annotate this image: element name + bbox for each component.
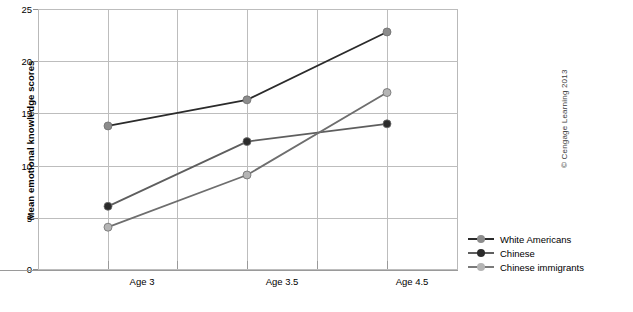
figure-container: Mean emotional knowledge scores 25 20 15… [0, 0, 633, 312]
ytick-label-20: 20 [21, 56, 32, 67]
legend-label-white-americans: White Americans [500, 234, 571, 245]
legend-swatch-icon [468, 248, 494, 258]
data-point [104, 223, 112, 231]
x-axis-line [0, 270, 458, 271]
series-layer [38, 9, 458, 270]
xtick-mark-5 [387, 261, 388, 269]
xtick-mark-4 [317, 261, 318, 269]
legend-label-chinese: Chinese [500, 248, 535, 259]
xtick-label-age-45: Age 4.5 [396, 276, 429, 287]
ytick-label-25: 25 [21, 4, 32, 15]
series-line-1 [108, 124, 387, 206]
legend: White Americans Chinese Chinese immigran… [468, 232, 618, 274]
data-point [104, 122, 112, 130]
xtick-label-age-3: Age 3 [130, 276, 155, 287]
ytick-label-15: 15 [21, 108, 32, 119]
plot-area: 25 20 15 10 5 0 [38, 9, 458, 270]
series-line-0 [108, 32, 387, 126]
data-point [243, 171, 251, 179]
legend-swatch-icon [468, 234, 494, 244]
copyright-credit: © Cengage Learning 2013 [560, 38, 569, 168]
xtick-mark-3 [247, 261, 248, 269]
data-point [104, 202, 112, 210]
legend-swatch-icon [468, 262, 494, 272]
data-point [383, 89, 391, 97]
data-point [243, 138, 251, 146]
ytick-label-5: 5 [27, 213, 32, 224]
legend-item-white-americans: White Americans [468, 232, 618, 246]
xtick-mark-1 [108, 261, 109, 269]
legend-item-chinese: Chinese [468, 246, 618, 260]
data-point [383, 120, 391, 128]
ytick-label-10: 10 [21, 161, 32, 172]
legend-label-chinese-immigrants: Chinese immigrants [500, 262, 584, 273]
data-point [383, 28, 391, 36]
xtick-mark-2 [177, 261, 178, 269]
series-line-2 [108, 93, 387, 228]
ytick-label-0: 0 [27, 264, 32, 275]
data-point [243, 96, 251, 104]
xtick-label-age-35: Age 3.5 [266, 276, 299, 287]
legend-item-chinese-immigrants: Chinese immigrants [468, 260, 618, 274]
